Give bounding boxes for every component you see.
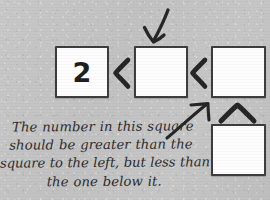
grid-cell-middle[interactable] — [134, 46, 188, 98]
hint-line-1: The number in this square — [0, 117, 200, 137]
grid-cell-left[interactable]: 2 — [55, 46, 109, 98]
grid-cell-right[interactable] — [211, 46, 266, 98]
less-than-icon-middle-right — [185, 56, 213, 90]
hint-line-3: square to the left, but less than — [0, 154, 200, 174]
arrow-down-left-icon — [138, 6, 176, 48]
hint-line-4: the one below it. — [0, 172, 200, 192]
hint-text: The number in this square should be grea… — [0, 117, 200, 191]
less-than-icon-right-below — [215, 100, 261, 126]
less-than-icon-left-middle — [108, 56, 136, 90]
grid-cell-left-value: 2 — [73, 59, 92, 86]
grid-cell-below[interactable] — [211, 124, 266, 176]
puzzle-canvas: 2 — [0, 0, 270, 200]
hint-line-2: should be greater than the — [0, 136, 200, 156]
